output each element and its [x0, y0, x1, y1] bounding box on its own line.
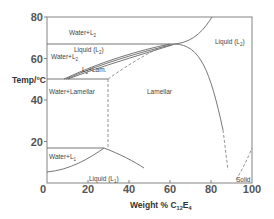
x-tick-60: 60	[164, 183, 176, 195]
label-lamellar: Lamellar	[147, 88, 173, 95]
label-water-l2-mid: Water+L2	[51, 53, 79, 62]
y-axis: 80 60 40 20 Temp/°C	[12, 11, 47, 148]
y-axis-title: Temp/°C	[12, 75, 46, 85]
x-axis: 0 20 40 60 80 100 Weight % C12E4	[40, 180, 261, 211]
y-tick-40: 40	[31, 94, 43, 106]
y-tick-80: 80	[31, 11, 43, 23]
x-tick-100: 100	[243, 183, 261, 195]
label-l2-lam: L2+Lam.	[82, 66, 107, 75]
label-water-l2-top: Water+L2	[69, 29, 97, 38]
x-tick-80: 80	[205, 183, 217, 195]
label-solid: Solid	[236, 176, 251, 183]
y-tick-20: 20	[31, 136, 43, 148]
x-tick-0: 0	[40, 183, 46, 195]
label-liquid-l2-left: Liquid (L2)	[74, 46, 104, 55]
label-water-lamellar: Water+Lamellar	[49, 88, 96, 95]
y-tick-60: 60	[31, 53, 43, 65]
label-water-l1: Water+L1	[49, 153, 77, 162]
label-liquid-l2-right: Liquid (L2)	[215, 38, 245, 47]
phase-diagram: 80 60 40 20 Temp/°C 0 20 40 60 80 100 We…	[0, 0, 274, 219]
x-axis-title: Weight % C12E4	[130, 200, 192, 211]
x-tick-40: 40	[123, 183, 135, 195]
x-tick-20: 20	[82, 183, 94, 195]
